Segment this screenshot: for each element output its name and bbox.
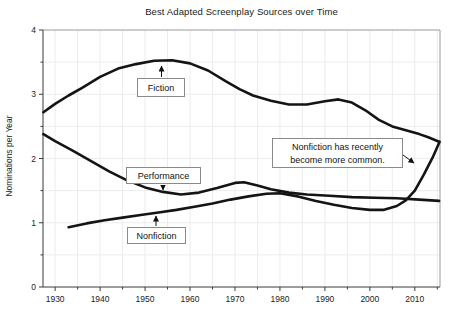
nonfiction-note-line2: become more common. xyxy=(273,154,402,167)
series-line-fiction xyxy=(43,60,439,142)
x-tick-label: 2010 xyxy=(405,294,424,304)
y-tick-label: 4 xyxy=(31,25,36,35)
x-tick-label: 1950 xyxy=(136,294,155,304)
x-tick-label: 1960 xyxy=(181,294,200,304)
nonfiction-note-box: Nonfiction has recently become more comm… xyxy=(272,138,403,168)
nonfiction-series-label: Nonfiction xyxy=(127,227,186,244)
y-tick-label: 1 xyxy=(31,218,36,228)
line-chart: Best Adapted Screenplay Sources over Tim… xyxy=(0,0,462,324)
fiction-series-label-text: Fiction xyxy=(148,83,175,93)
x-tick-label: 1980 xyxy=(270,294,289,304)
x-tick-label: 1930 xyxy=(46,294,65,304)
x-tick-label: 1970 xyxy=(226,294,245,304)
x-tick-label: 1940 xyxy=(91,294,110,304)
performance-series-label-text: Performance xyxy=(138,171,190,181)
y-tick-label: 3 xyxy=(31,89,36,99)
nonfiction-note-line1: Nonfiction has recently xyxy=(273,141,402,154)
performance-series-label: Performance xyxy=(126,167,201,184)
fiction-series-label: Fiction xyxy=(137,78,185,97)
x-tick-label: 2000 xyxy=(360,294,379,304)
y-tick-label: 2 xyxy=(31,154,36,164)
y-tick-label: 0 xyxy=(31,282,36,292)
nonfiction-series-label-text: Nonfiction xyxy=(136,231,176,241)
x-tick-label: 1990 xyxy=(315,294,334,304)
